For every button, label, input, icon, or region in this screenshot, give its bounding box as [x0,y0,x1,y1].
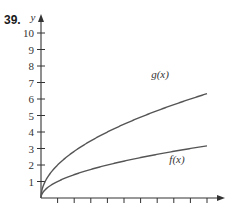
y-tick-label: 7 [29,77,35,89]
y-tick-label: 10 [23,27,35,39]
y-tick-label: 2 [29,159,35,171]
y-tick-label: 6 [29,93,35,105]
curve-gx [41,94,207,198]
y-tick-label: 5 [29,110,35,122]
y-tick-label: 4 [29,126,35,138]
y-tick-label: 1 [29,176,35,188]
x-axis-arrow-icon [217,195,225,201]
y-axis-label: y [30,11,36,23]
y-tick-label: 9 [29,44,35,56]
labels: 12345678910yg(x)f(x) [23,11,185,188]
y-tick-label: 3 [29,143,35,155]
curves [41,94,207,198]
curve-label-f: f(x) [169,153,185,166]
axes [37,14,225,203]
y-tick-label: 8 [29,60,35,72]
curve-label-g: g(x) [151,68,169,81]
y-axis-arrow-icon [38,14,44,22]
chart: 12345678910yg(x)f(x) [0,0,227,203]
